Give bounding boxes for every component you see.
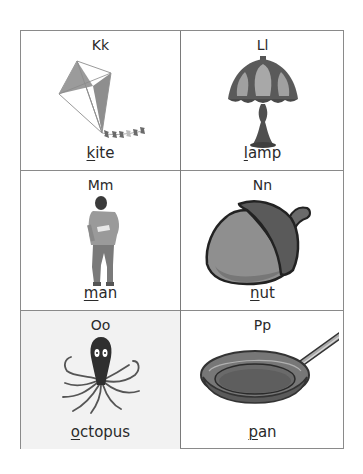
letter-pair: Ll [181,37,344,53]
word-first-letter: m [84,284,99,302]
word-label: nut [181,284,344,302]
cell-kite: Kk kite [21,31,180,170]
cell-octopus: Oo octopus [21,311,180,449]
cell-lamp: Ll lamp [181,31,344,170]
word-rest: an [98,284,117,302]
word-rest: amp [248,144,281,162]
letter-pair: Nn [181,177,344,193]
column-divider [180,31,181,448]
cell-pan: Pp pan [181,311,344,449]
word-label: pan [181,423,344,441]
lamp-icon [223,56,303,148]
word-label: kite [21,144,180,162]
word-rest: an [258,423,277,441]
man-icon [85,195,125,289]
word-label: lamp [181,144,344,162]
cell-man: Mm man [21,171,180,310]
word-first-letter: p [248,423,258,441]
acorn-nut-icon [203,196,317,288]
word-first-letter: o [71,423,80,441]
word-rest: ut [260,284,275,302]
letter-pair: Kk [21,37,180,53]
letter-pair: Mm [21,177,180,193]
cell-nut: Nn nut [181,171,344,310]
word-rest: ctopus [80,423,130,441]
word-rest: ite [95,144,114,162]
word-first-letter: n [250,284,260,302]
octopus-icon [57,335,147,417]
word-first-letter: k [87,144,96,162]
word-label: man [21,284,180,302]
frying-pan-icon [199,319,339,409]
alphabet-worksheet-grid: Kk kite Ll [20,30,344,449]
word-label: octopus [21,423,180,441]
letter-pair: Oo [21,317,180,333]
kite-icon [55,59,147,139]
